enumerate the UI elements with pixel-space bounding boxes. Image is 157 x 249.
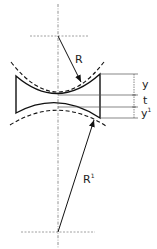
- label-radius-bottom: R1: [83, 172, 95, 186]
- upper-offset-arc: [11, 62, 104, 92]
- label-radius-top: R: [75, 53, 83, 66]
- label-radius-bottom-sup: 1: [91, 172, 95, 179]
- label-dim-y-prime: y1: [141, 106, 152, 120]
- label-dim-y-prime-sup: 1: [148, 106, 152, 113]
- lens-diagram: R R1 y t y1: [0, 0, 157, 249]
- label-dim-y: y: [142, 78, 149, 91]
